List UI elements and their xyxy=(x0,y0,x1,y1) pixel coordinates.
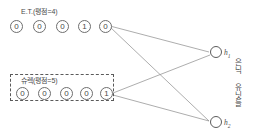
visible-unit-value: 0 xyxy=(103,22,107,30)
connection-edge xyxy=(113,95,209,121)
visible-unit[interactable]: 0 xyxy=(16,87,29,100)
visible-unit-value: 1 xyxy=(104,89,108,97)
hidden-unit-label-subscript: 2 xyxy=(228,123,231,129)
visible-unit[interactable]: 0 xyxy=(80,87,93,100)
hidden-units-axis-caption: 은닉 유닛들 xyxy=(231,58,242,107)
visible-unit[interactable]: 0 xyxy=(99,20,112,33)
hidden-unit-label-h2: h2 xyxy=(224,118,231,129)
visible-unit-value: 0 xyxy=(42,89,46,97)
hidden-unit-h1[interactable] xyxy=(210,46,222,58)
hidden-unit-h2[interactable] xyxy=(210,116,222,128)
visible-unit[interactable]: 0 xyxy=(33,20,46,33)
visible-unit[interactable]: 1 xyxy=(78,20,91,33)
connection-edge xyxy=(110,26,209,52)
visible-unit-value: 1 xyxy=(82,22,86,30)
visible-unit[interactable]: 1 xyxy=(100,87,113,100)
diagram-canvas: E.T.(평점=4)00010슈렉(평점=5)00001 h1h2 은닉 유닛들 xyxy=(0,0,260,139)
visible-unit-value: 0 xyxy=(64,89,68,97)
visible-unit-value: 0 xyxy=(20,89,24,97)
connection-edge xyxy=(110,27,209,121)
visible-unit[interactable]: 0 xyxy=(56,20,69,33)
visible-unit[interactable]: 0 xyxy=(38,87,51,100)
hidden-unit-label-h1: h1 xyxy=(224,48,231,59)
visible-unit[interactable]: 0 xyxy=(60,87,73,100)
visible-unit-value: 0 xyxy=(84,89,88,97)
connection-edge xyxy=(113,55,210,93)
group-caption-group-shrek: 슈렉(평점=5) xyxy=(21,77,58,84)
visible-unit-value: 0 xyxy=(14,22,18,30)
visible-unit[interactable]: 0 xyxy=(10,20,23,33)
visible-unit-value: 0 xyxy=(60,22,64,30)
visible-unit-value: 0 xyxy=(37,22,41,30)
group-caption-group-et: E.T.(평점=4) xyxy=(21,8,58,15)
